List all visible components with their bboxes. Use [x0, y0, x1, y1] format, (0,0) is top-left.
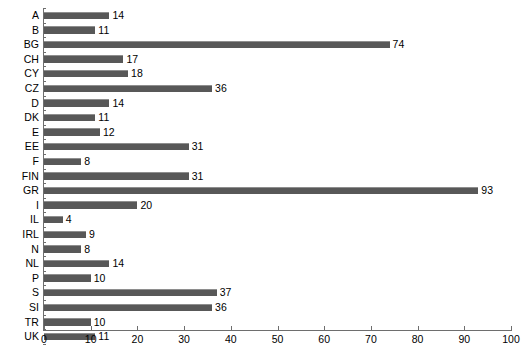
bar — [44, 26, 95, 33]
y-tick — [43, 154, 46, 155]
category-label: F — [0, 154, 39, 169]
bar — [44, 99, 109, 106]
bar-row: FIN31 — [44, 169, 511, 184]
bar-value-label: 14 — [112, 8, 124, 23]
bar-row: CZ36 — [44, 81, 511, 96]
bar-value-label: 11 — [98, 329, 109, 344]
bar-value-label: 31 — [192, 139, 204, 154]
y-tick — [43, 96, 46, 97]
bar-row: E12 — [44, 125, 511, 140]
x-tick — [278, 326, 279, 330]
y-tick — [43, 169, 46, 170]
y-tick — [43, 242, 46, 243]
x-tick — [464, 326, 465, 330]
y-tick — [43, 183, 46, 184]
bar — [44, 114, 95, 121]
x-tick — [511, 326, 512, 330]
category-label: I — [0, 198, 39, 213]
category-label: CZ — [0, 81, 39, 96]
x-tick-label: 50 — [272, 333, 284, 346]
bar — [44, 274, 91, 281]
category-label: TR — [0, 315, 39, 330]
x-tick-label: 0 — [41, 333, 47, 346]
bar — [44, 304, 212, 311]
bar-value-label: 36 — [215, 300, 227, 315]
y-tick — [43, 139, 46, 140]
bar — [44, 85, 212, 92]
x-tick — [324, 326, 325, 330]
x-tick — [184, 326, 185, 330]
category-label: S — [0, 285, 39, 300]
category-label: IRL — [0, 227, 39, 242]
x-tick-label: 30 — [178, 333, 190, 346]
bar — [44, 187, 478, 194]
bar-row: N8 — [44, 242, 511, 257]
category-label: GR — [0, 183, 39, 198]
bar — [44, 41, 390, 48]
category-label: EE — [0, 139, 39, 154]
bar — [44, 260, 109, 267]
y-tick — [43, 110, 46, 111]
bar-value-label: 10 — [94, 271, 106, 286]
x-tick — [418, 326, 419, 330]
bar-value-label: 11 — [98, 23, 109, 38]
category-label: SI — [0, 300, 39, 315]
bar-value-label: 31 — [192, 169, 204, 184]
y-tick — [43, 227, 46, 228]
bar-value-label: 12 — [103, 125, 115, 140]
x-tick-label: 80 — [412, 333, 424, 346]
bar — [44, 289, 217, 296]
x-tick-label: 10 — [85, 333, 97, 346]
category-label: DK — [0, 110, 39, 125]
x-tick-label: 100 — [502, 333, 520, 346]
category-label: BG — [0, 37, 39, 52]
category-label: P — [0, 271, 39, 286]
y-tick — [43, 66, 46, 67]
bar-row: SI36 — [44, 300, 511, 315]
bar-row: GR93 — [44, 183, 511, 198]
y-tick — [43, 81, 46, 82]
y-tick — [43, 198, 46, 199]
category-label: D — [0, 96, 39, 111]
bar — [44, 201, 137, 208]
y-tick — [43, 8, 46, 9]
bar-value-label: 20 — [140, 198, 152, 213]
bar — [44, 143, 189, 150]
y-tick — [43, 52, 46, 53]
bar-value-label: 11 — [98, 110, 109, 125]
bar-row: D14 — [44, 96, 511, 111]
bar-row: CH17 — [44, 52, 511, 67]
category-label: A — [0, 8, 39, 23]
x-tick-label: 70 — [365, 333, 377, 346]
x-tick — [44, 326, 45, 330]
bar-row: F8 — [44, 154, 511, 169]
x-tick — [371, 326, 372, 330]
bar-row: A14 — [44, 8, 511, 23]
bar — [44, 172, 189, 179]
bar-value-label: 8 — [84, 242, 90, 257]
x-tick-label: 20 — [132, 333, 144, 346]
bar-row: NL14 — [44, 256, 511, 271]
y-tick — [43, 271, 46, 272]
bar-value-label: 37 — [220, 285, 232, 300]
bar-value-label: 18 — [131, 66, 143, 81]
bar — [44, 55, 123, 62]
bar-row: B11 — [44, 23, 511, 38]
category-label: IL — [0, 212, 39, 227]
bar — [44, 245, 81, 252]
bar-row: P10 — [44, 271, 511, 286]
bar-row: EE31 — [44, 139, 511, 154]
bar — [44, 158, 81, 165]
bar-value-label: 74 — [393, 37, 405, 52]
x-tick — [91, 326, 92, 330]
x-tick-label: 60 — [318, 333, 330, 346]
bar-value-label: 93 — [481, 183, 493, 198]
category-label: B — [0, 23, 39, 38]
category-label: E — [0, 125, 39, 140]
bar — [44, 128, 100, 135]
bar-row: CY18 — [44, 66, 511, 81]
category-label: CH — [0, 52, 39, 67]
x-tick — [231, 326, 232, 330]
x-tick — [137, 326, 138, 330]
bar-value-label: 14 — [112, 96, 124, 111]
